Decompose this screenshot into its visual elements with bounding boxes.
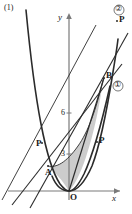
point-dot-B [103, 77, 105, 79]
line-label-1: ① [114, 81, 121, 89]
point-A-label: A [45, 168, 52, 177]
y-tick-label-6: 6 [61, 109, 65, 117]
case-label: (1) [4, 4, 13, 12]
y-axis-label: y [58, 13, 62, 22]
y-axis-arrowhead [66, 13, 72, 19]
point-B-label: B [106, 71, 112, 80]
shaded-region-oab [48, 80, 103, 191]
point-P-right-label: P [99, 136, 105, 145]
point-P-top-label: P [119, 15, 125, 24]
point-dot-P-top [116, 20, 118, 22]
point-dot-P-right [96, 141, 98, 143]
origin-label: O [70, 193, 77, 202]
line-label-2: ② [115, 5, 122, 13]
x-axis-label: x [112, 194, 116, 203]
y-tick-label-3: 3 [61, 150, 65, 158]
point-P-left-label: P [36, 139, 42, 148]
figure-canvas [0, 0, 132, 214]
math-figure: (1) y x O 3 6 A B P P P ① ② [0, 0, 132, 214]
